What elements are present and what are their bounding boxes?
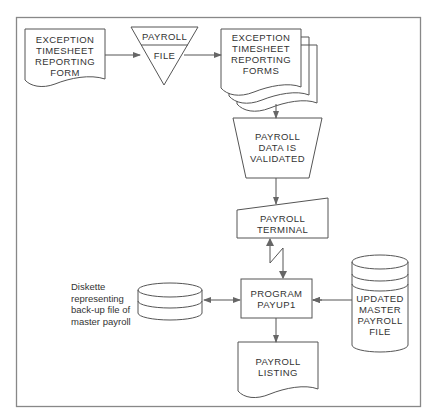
payroll-file-label-top: PAYROLL bbox=[131, 31, 198, 42]
validated-label: PAYROLL DATA IS VALIDATED bbox=[233, 131, 322, 164]
program-label: PROGRAM PAYUP1 bbox=[241, 288, 312, 310]
listing-label: PAYROLL LISTING bbox=[238, 356, 318, 378]
master-file-label: UPDATED MASTER PAYROLL FILE bbox=[352, 293, 408, 337]
payroll-file-label-bottom: FILE bbox=[131, 50, 198, 61]
exception-form-label: EXCEPTION TIMESHEET REPORTING FORM bbox=[25, 34, 105, 78]
terminal-label: PAYROLL TERMINAL bbox=[237, 213, 328, 235]
exception-forms-label: EXCEPTION TIMESHEET REPORTING FORMS bbox=[221, 32, 301, 76]
diskette-note: Diskette representing back-up file of ma… bbox=[71, 281, 141, 327]
